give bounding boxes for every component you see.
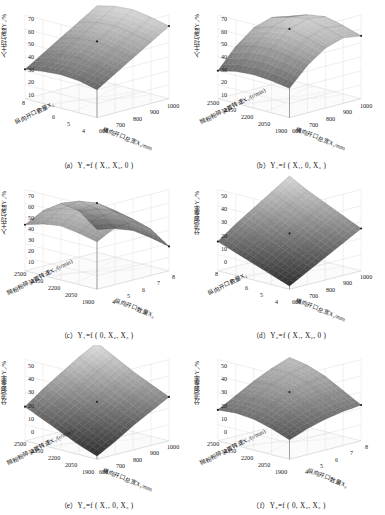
- response-surface-figure: 入土均匀度Y₁/%7060504030201087654600700800900…: [0, 0, 385, 515]
- panel-caption-b: （b）Y₁=f ( X₁, 0, X₃ ): [193, 160, 385, 170]
- y-tick-label: 50: [14, 215, 34, 221]
- y-tick-label: 10: [207, 246, 227, 252]
- panel-caption-d: （d）Y₂=f ( X₁, X₂, 0 ): [193, 330, 385, 340]
- surface-marker: [288, 232, 290, 234]
- y-axis-title: 入土均匀度Y₁/%: [194, 14, 207, 58]
- y-tick-label: 60: [14, 29, 34, 35]
- y-tick-label: 20: [207, 403, 227, 409]
- surface-marker: [288, 391, 290, 393]
- left-axis-tick-label: 8: [22, 100, 25, 106]
- right-axis-tick-label: 1000: [360, 103, 372, 109]
- surface-marker: [168, 396, 170, 398]
- right-axis-tick-label: 700: [309, 293, 318, 299]
- panel-e: 分流偏差率Y₂/%5040302010025002350220020501900…: [0, 345, 193, 515]
- y-tick-label: 50: [207, 193, 227, 199]
- right-axis-tick-label: 800: [326, 287, 335, 293]
- y-tick-label: 30: [207, 389, 227, 395]
- y-tick-label: 10: [207, 416, 227, 422]
- y-tick-label: 10: [207, 92, 227, 98]
- right-axis-tick-label: 900: [150, 109, 159, 115]
- left-axis-tick-label: 6: [245, 285, 248, 291]
- y-tick-label: 20: [14, 248, 34, 254]
- right-axis-tick-label: 700: [116, 122, 125, 128]
- right-axis-tick-label: 800: [326, 116, 335, 122]
- y-tick-label: 20: [207, 233, 227, 239]
- y-tick-label: 30: [207, 67, 227, 73]
- left-axis-tick-label: 1900: [275, 128, 287, 134]
- y-tick-label: 40: [207, 206, 227, 212]
- panel-a: 入土均匀度Y₁/%7060504030201087654600700800900…: [0, 0, 193, 175]
- y-tick-label: 20: [207, 79, 227, 85]
- panel-caption-f: （f）Y₂=f ( 0, X₂, X₃ ): [193, 500, 385, 510]
- panel-f: 分流偏差率Y₂/%5040302010025002350220020501900…: [193, 345, 385, 515]
- y-tick-label: 30: [14, 67, 34, 73]
- response-surface: [25, 6, 169, 90]
- y-tick-label: 10: [14, 92, 34, 98]
- left-axis-tick-label: 5: [67, 121, 70, 127]
- y-tick-label: 50: [207, 41, 227, 47]
- y-tick-label: 70: [14, 16, 34, 22]
- y-tick-label: 20: [14, 79, 34, 85]
- y-tick-label: 10: [14, 416, 34, 422]
- y-tick-label: 60: [14, 204, 34, 210]
- y-axis-title: 分流偏差率Y₂/%: [1, 361, 14, 405]
- surface-marker: [217, 409, 219, 411]
- y-tick-label: 10: [14, 259, 34, 265]
- right-axis-tick-label: 8: [172, 274, 175, 280]
- left-axis-tick-label: 2200: [48, 285, 60, 291]
- left-axis-tick-label: 2500: [14, 441, 26, 447]
- right-axis-tick-label: 5: [127, 293, 130, 299]
- left-axis-tick-label: 2200: [48, 455, 60, 461]
- panel-d: 分流偏差率Y₂/%5040302010087654600700800900100…: [193, 175, 385, 345]
- left-axis-tick-label: 6: [52, 114, 55, 120]
- left-axis-tick-label: 2200: [241, 455, 253, 461]
- y-tick-label: 40: [14, 226, 34, 232]
- right-axis-tick-label: 700: [309, 122, 318, 128]
- y-tick-label: 0: [207, 429, 227, 435]
- right-axis-tick-label: 6: [335, 457, 338, 463]
- y-axis-title: 入土均匀度Y₁/%: [1, 191, 14, 235]
- left-axis-tick-label: 4: [82, 128, 85, 134]
- left-axis-tick-label: 2050: [65, 292, 77, 298]
- panel-caption-a: （a）Y₁=f ( X₁, X₂, 0 ): [0, 160, 193, 170]
- y-tick-label: 70: [207, 16, 227, 22]
- left-axis-tick-label: 2050: [258, 462, 270, 468]
- right-axis-tick-label: 1000: [360, 274, 372, 280]
- right-axis-tick-label: 800: [133, 457, 142, 463]
- panel-caption-c: （c）Y₁=f ( 0, X₂, X₃ ): [0, 330, 193, 340]
- panel-b: 入土均匀度Y₁/%7060504030201025002350220020501…: [193, 0, 385, 175]
- left-axis-tick-label: 2050: [258, 121, 270, 127]
- response-surface: [218, 15, 361, 89]
- right-axis-tick-label: 900: [343, 109, 352, 115]
- left-axis-tick-label: 5: [260, 292, 263, 298]
- y-tick-label: 0: [207, 259, 227, 265]
- y-tick-label: 30: [14, 237, 34, 243]
- panel-c: 入土均匀度Y₁/%7060504030201025002350220020501…: [0, 175, 193, 345]
- right-axis-tick-label: 700: [116, 463, 125, 469]
- surface-marker: [168, 25, 170, 27]
- y-tick-label: 60: [207, 29, 227, 35]
- right-axis-tick-label: 900: [150, 450, 159, 456]
- surface-marker: [96, 401, 98, 403]
- right-axis-tick-label: 5: [320, 463, 323, 469]
- y-tick-label: 40: [14, 54, 34, 60]
- surface-marker: [168, 245, 170, 247]
- left-axis-tick-label: 2500: [207, 100, 219, 106]
- y-axis-title: 入土均匀度Y₁/%: [1, 14, 14, 58]
- left-axis-tick-label: 2500: [14, 271, 26, 277]
- response-surface: [25, 201, 169, 246]
- y-tick-label: 30: [207, 219, 227, 225]
- y-tick-label: 40: [207, 54, 227, 60]
- y-axis-title: 分流偏差率Y₂/%: [194, 191, 207, 235]
- left-axis-tick-label: 2200: [241, 114, 253, 120]
- left-axis-tick-label: 8: [215, 271, 218, 277]
- surface-marker: [96, 40, 98, 42]
- left-axis-tick-label: 1900: [82, 299, 94, 305]
- right-axis-tick-label: 800: [133, 116, 142, 122]
- y-tick-label: 70: [14, 193, 34, 199]
- right-axis-tick-label: 7: [157, 280, 160, 286]
- left-axis-tick-label: 2050: [65, 462, 77, 468]
- left-axis-tick-label: 1900: [82, 469, 94, 475]
- left-axis-tick-label: 4: [275, 299, 278, 305]
- right-axis-tick-label: 6: [142, 287, 145, 293]
